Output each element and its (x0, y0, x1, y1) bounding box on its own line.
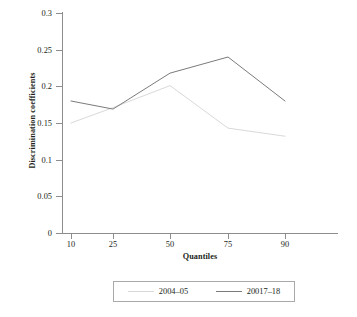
plot-area (62, 13, 338, 233)
series-line-2 (71, 57, 285, 109)
y-tick-label: 0 (0, 229, 52, 238)
x-tick-mark (170, 234, 171, 239)
x-tick-mark (228, 234, 229, 239)
series-lines (62, 13, 338, 233)
y-tick-label: 0.2 (0, 82, 52, 91)
legend-line-swatch (216, 291, 242, 292)
x-tick-mark (113, 234, 114, 239)
x-tick-label: 10 (51, 240, 91, 249)
y-tick-label: 0.05 (0, 192, 52, 201)
y-tick-label: 0.15 (0, 119, 52, 128)
legend-entry-2: 20017–18 (216, 287, 281, 296)
y-tick-label: 0.1 (0, 155, 52, 164)
legend-line-swatch (128, 291, 154, 292)
x-tick-label: 25 (93, 240, 133, 249)
x-tick-mark (71, 234, 72, 239)
x-axis-line (62, 233, 338, 234)
legend-entry-1: 2004–05 (128, 287, 188, 296)
legend-label: 2004–05 (159, 287, 188, 296)
y-tick-label: 0.3 (0, 9, 52, 18)
chart-legend: 2004–0520017–18 (113, 281, 295, 302)
legend-label: 20017–18 (247, 287, 281, 296)
chart-figure: Discrimination coefficients 00.050.10.15… (0, 0, 357, 317)
y-tick-mark (56, 233, 62, 234)
y-tick-label: 0.25 (0, 45, 52, 54)
x-tick-mark (285, 234, 286, 239)
x-tick-label: 75 (208, 240, 248, 249)
series-line-1 (71, 86, 285, 137)
x-tick-label: 90 (265, 240, 305, 249)
x-tick-label: 50 (150, 240, 190, 249)
x-axis-title: Quantiles (62, 252, 338, 261)
